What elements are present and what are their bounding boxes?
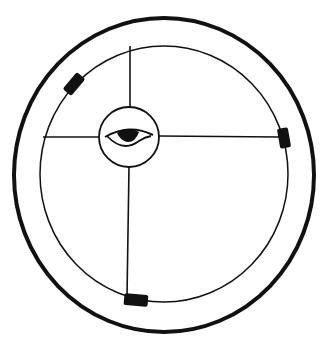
spoke-bottom (127, 167, 129, 297)
wheel-diagram (0, 0, 326, 340)
outer-ring (14, 18, 314, 332)
diagram-canvas (0, 0, 326, 340)
spoke-right (159, 136, 280, 137)
marker-right (277, 127, 291, 149)
marker-bottom (124, 293, 149, 307)
rim-markers (63, 72, 291, 307)
marker-upper-left (63, 72, 86, 96)
